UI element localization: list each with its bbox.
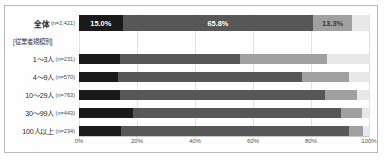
stacked-bar-size-100-plus[interactable] — [79, 126, 369, 136]
bar-segment-size-100-plus-s2[interactable] — [121, 126, 349, 136]
bar-segment-size-100-plus-s3[interactable] — [349, 126, 364, 136]
bar-segment-size-4-9-s2[interactable] — [118, 72, 302, 82]
x-tick-label-40: 40% — [189, 138, 201, 144]
row-label-name: 100人以上 — [22, 126, 54, 136]
row-label-count: (n=2,421) — [51, 20, 75, 26]
bar-wrap-size-30-99 — [79, 104, 369, 122]
bar-segment-size-1-3-s1[interactable] — [79, 54, 120, 64]
bar-wrap-size-10-29 — [79, 86, 369, 104]
row-label-name: 4～9人 — [33, 72, 54, 82]
group-header-label: [従業者規模別] — [5, 32, 77, 50]
row-label-count: (n=234) — [56, 128, 75, 134]
row-label-size-4-9: 4～9人(n=570) — [5, 68, 75, 86]
bar-segment-size-1-3-s4[interactable] — [327, 54, 369, 64]
row-label-size-1-3: 1～3人(n=231) — [5, 50, 75, 68]
bar-segment-size-10-29-s1[interactable] — [79, 90, 120, 100]
group-header-row: [従業者規模別] — [5, 32, 377, 50]
bar-segment-label: 65.8% — [207, 19, 228, 28]
chart-row-size-4-9: 4～9人(n=570) — [5, 68, 377, 86]
x-tick-label-0: 0% — [75, 138, 84, 144]
bar-segment-size-4-9-s1[interactable] — [79, 72, 118, 82]
row-label-name: 30～99人 — [25, 108, 54, 118]
row-label-count: (n=570) — [56, 74, 75, 80]
x-tick-label-20: 20% — [131, 138, 143, 144]
x-tick-label-100: 100% — [361, 138, 376, 144]
bar-segment-size-30-99-s4[interactable] — [362, 108, 369, 118]
x-tick-label-60: 60% — [247, 138, 259, 144]
chart-row-size-30-99: 30～99人(n=443) — [5, 104, 377, 122]
row-label-size-30-99: 30～99人(n=443) — [5, 104, 75, 122]
bar-segment-size-30-99-s1[interactable] — [79, 108, 133, 118]
bar-segment-size-30-99-s2[interactable] — [133, 108, 342, 118]
bar-segment-size-1-3-s3[interactable] — [240, 54, 327, 64]
row-label-count: (n=443) — [56, 110, 75, 116]
bar-segment-size-10-29-s4[interactable] — [357, 90, 369, 100]
row-label-name: 1～3人 — [33, 54, 54, 64]
bar-segment-label: 15.0% — [90, 19, 111, 28]
stacked-bar-total[interactable]: 15.0%65.8%13.3% — [79, 15, 369, 31]
bar-wrap-size-4-9 — [79, 68, 369, 86]
stacked-bar-size-10-29[interactable] — [79, 90, 369, 100]
bar-segment-size-10-29-s3[interactable] — [325, 90, 357, 100]
chart-row-size-1-3: 1～3人(n=231) — [5, 50, 377, 68]
bar-segment-size-100-plus-s4[interactable] — [363, 126, 369, 136]
x-axis-line — [79, 136, 369, 137]
bar-segment-size-100-plus-s1[interactable] — [79, 126, 121, 136]
bar-wrap-total: 15.0%65.8%13.3% — [79, 14, 369, 32]
row-label-name: 全体 — [34, 18, 50, 29]
bar-segment-size-30-99-s3[interactable] — [341, 108, 361, 118]
bar-segment-size-4-9-s4[interactable] — [349, 72, 369, 82]
chart-row-total: 全体(n=2,421)15.0%65.8%13.3% — [5, 14, 377, 32]
bar-segment-size-1-3-s2[interactable] — [120, 54, 240, 64]
stacked-bar-size-1-3[interactable] — [79, 54, 369, 64]
row-label-count: (n=231) — [56, 56, 75, 62]
chart-rows: 全体(n=2,421)15.0%65.8%13.3%[従業者規模別]1～3人(n… — [5, 6, 377, 152]
row-label-size-10-29: 10～29人(n=763) — [5, 86, 75, 104]
bar-segment-total-s2[interactable]: 65.8% — [123, 15, 314, 31]
bar-wrap-size-1-3 — [79, 50, 369, 68]
stacked-bar-size-4-9[interactable] — [79, 72, 369, 82]
bar-segment-size-4-9-s3[interactable] — [302, 72, 348, 82]
bar-segment-total-s4[interactable] — [352, 15, 369, 31]
chart-row-size-10-29: 10～29人(n=763) — [5, 86, 377, 104]
row-label-name: 10～29人 — [25, 90, 54, 100]
bar-segment-total-s1[interactable]: 15.0% — [79, 15, 123, 31]
bar-segment-total-s3[interactable]: 13.3% — [313, 15, 352, 31]
stacked-bar-size-30-99[interactable] — [79, 108, 369, 118]
row-label-count: (n=763) — [56, 92, 75, 98]
bar-segment-size-10-29-s2[interactable] — [120, 90, 326, 100]
row-label-size-100-plus: 100人以上(n=234) — [5, 122, 75, 140]
row-label-total: 全体(n=2,421) — [5, 14, 75, 32]
x-axis: 0%20%40%60%80%100% — [79, 136, 369, 150]
chart-frame: 全体(n=2,421)15.0%65.8%13.3%[従業者規模別]1～3人(n… — [4, 5, 378, 153]
x-tick-label-80: 80% — [305, 138, 317, 144]
bar-segment-label: 13.3% — [322, 19, 343, 28]
